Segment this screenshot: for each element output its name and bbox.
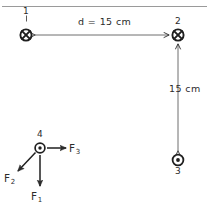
charge-1-label: 1 xyxy=(23,7,29,16)
force-3-label: F3 xyxy=(69,143,80,154)
figure-canvas xyxy=(0,0,209,213)
force-1-label: F1 xyxy=(31,191,42,202)
charge-4-symbol xyxy=(35,143,45,153)
force-2-label: F2 xyxy=(4,173,15,184)
vertical-distance-label: 15 cm xyxy=(169,84,201,94)
force-2-subscript: 2 xyxy=(11,178,16,186)
force-1-subscript: 1 xyxy=(38,196,43,204)
force-2-symbol: F xyxy=(4,172,10,184)
force-3-subscript: 3 xyxy=(76,148,81,156)
charge-3-symbol xyxy=(173,155,184,166)
charge-4-label: 4 xyxy=(37,130,43,139)
charge-2-label: 2 xyxy=(175,17,181,26)
physics-figure: 1 2 3 4 d = 15 cm 15 cm F3 F1 F2 xyxy=(0,0,209,213)
charge-2-symbol xyxy=(172,29,183,40)
charge-3-label: 3 xyxy=(175,167,181,176)
force-3-symbol: F xyxy=(69,142,75,154)
force-2-arrow xyxy=(18,153,36,172)
charge-1-symbol xyxy=(20,29,31,40)
force-1-symbol: F xyxy=(31,190,37,202)
horizontal-distance-label: d = 15 cm xyxy=(78,17,131,27)
